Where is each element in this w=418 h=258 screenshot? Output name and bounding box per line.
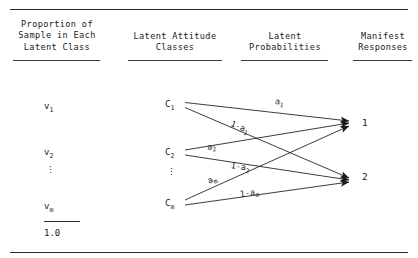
edge-label-1-am: 1-am	[239, 187, 259, 199]
edge-label-a2: a2	[206, 142, 216, 152]
diagram-page: Proportion of Sample in Each Latent Clas…	[0, 0, 418, 258]
manifest-response-1: 1	[362, 118, 368, 128]
manifest-response-2: 2	[362, 172, 368, 182]
transition-arrows	[0, 0, 418, 258]
edge-label-a1: a1	[274, 97, 284, 107]
arrow-cm-to-1	[185, 126, 349, 200]
